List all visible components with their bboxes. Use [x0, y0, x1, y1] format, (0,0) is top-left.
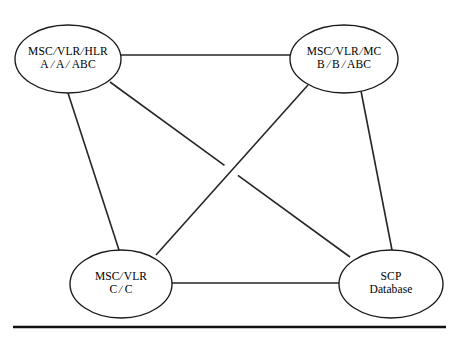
scp-database-ellipse[interactable]	[339, 250, 443, 318]
diagram-svg	[0, 0, 459, 340]
edge-mc-b-to-msc-vlr-c	[156, 85, 308, 255]
diagram-canvas: MSC/VLR/HLRA/A/ABCMSC/VLR/MCB/B/ABCMSC/V…	[0, 0, 459, 340]
edge-hlr-a-to-msc-vlr-c	[68, 93, 119, 250]
msc-vlr-mc-b-ellipse[interactable]	[290, 25, 398, 93]
nodes-layer	[15, 25, 443, 318]
edge-hlr-a-to-scp-database-segment-2	[238, 175, 350, 257]
msc-vlr-c-ellipse[interactable]	[70, 250, 172, 318]
edge-hlr-a-to-scp-database-segment-1	[110, 82, 224, 165]
edge-mc-b-to-scp-database	[361, 91, 392, 250]
msc-vlr-hlr-a-ellipse[interactable]	[15, 25, 121, 93]
